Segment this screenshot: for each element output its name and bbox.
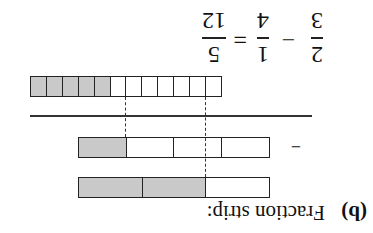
denominator: 12 xyxy=(202,10,226,34)
divider-line xyxy=(30,116,312,118)
shaded-cell xyxy=(62,77,78,96)
numerator: 1 xyxy=(257,43,269,67)
empty-cell xyxy=(174,138,222,157)
empty-cell xyxy=(173,77,189,96)
empty-cell xyxy=(221,138,269,157)
shaded-cell xyxy=(79,178,142,197)
quarters-strip xyxy=(78,137,270,158)
empty-cell xyxy=(157,77,173,96)
empty-cell xyxy=(205,178,269,197)
numerator: 5 xyxy=(208,43,220,67)
twelfths-strip xyxy=(30,76,222,97)
denominator: 4 xyxy=(257,10,269,34)
denominator: 3 xyxy=(311,10,323,34)
fraction-one-quarter: 1 4 xyxy=(257,10,269,68)
shaded-cell xyxy=(79,138,126,157)
shaded-cell xyxy=(78,77,94,96)
dashed-guide-right xyxy=(125,97,126,137)
empty-cell xyxy=(125,77,141,96)
equals-sign: = xyxy=(233,26,247,53)
empty-cell xyxy=(110,77,126,96)
numerator: 2 xyxy=(311,43,323,67)
empty-cell xyxy=(189,77,205,96)
empty-cell xyxy=(141,77,157,96)
figure-title: Fraction strip: xyxy=(207,200,325,225)
minus-sign: − xyxy=(291,136,301,157)
shaded-cell xyxy=(94,77,110,96)
shaded-cell xyxy=(142,178,206,197)
part-label: (b) xyxy=(341,200,367,225)
fraction-strip-figure: (b) Fraction strip: − 2 3 − 1 4 = 5 12 xyxy=(0,0,373,233)
fraction-two-thirds: 2 3 xyxy=(311,10,323,68)
fraction-five-twelfths: 5 12 xyxy=(202,10,226,68)
thirds-strip xyxy=(78,177,270,198)
empty-cell xyxy=(126,138,174,157)
dashed-guide-left xyxy=(205,97,206,177)
shaded-cell xyxy=(31,77,46,96)
empty-cell xyxy=(205,77,221,96)
shaded-cell xyxy=(46,77,62,96)
minus-operator: − xyxy=(281,26,295,53)
